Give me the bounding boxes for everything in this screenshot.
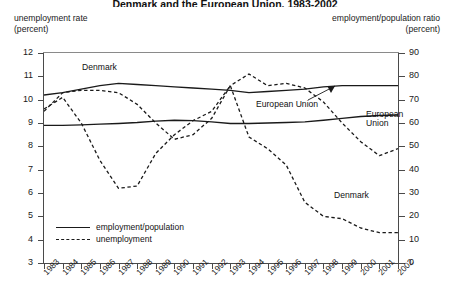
left-tick-label-5: 5 [9, 210, 33, 220]
right-axis-title-line2: (percent) [406, 24, 440, 34]
series-denmark-employment-population [44, 83, 398, 95]
right-tick-80 [399, 76, 405, 77]
right-tick-20 [399, 216, 405, 217]
series-european-union-employment-population [44, 115, 398, 125]
right-tick-label-40: 40 [409, 164, 435, 174]
chart-figure: Denmark and the European Union, 1983-200… [0, 0, 450, 303]
left-axis-title: unemployment rate (percent) [14, 13, 88, 34]
left-tick-label-10: 10 [9, 94, 33, 104]
right-tick-30 [399, 193, 405, 194]
right-tick-label-90: 90 [409, 47, 435, 57]
left-tick-label-8: 8 [9, 140, 33, 150]
right-tick-90 [399, 53, 405, 54]
left-tick-label-4: 4 [9, 234, 33, 244]
legend-solid-line-swatch [56, 223, 90, 231]
legend-item-unemployment: unemployment [56, 233, 184, 245]
left-tick-label-7: 7 [9, 164, 33, 174]
right-tick-label-80: 80 [409, 70, 435, 80]
left-tick-label-9: 9 [9, 117, 33, 127]
right-axis-title-line1: employment/population ratio [332, 13, 440, 23]
right-tick-label-50: 50 [409, 140, 435, 150]
legend-label-unemployment: unemployment [96, 234, 152, 244]
series-denmark-unemployment [44, 86, 398, 233]
left-axis-title-line1: unemployment rate [14, 13, 88, 23]
denmark-employment-label: Denmark [82, 63, 117, 73]
right-tick-10 [399, 240, 405, 241]
left-tick-label-11: 11 [9, 70, 33, 80]
right-axis-line [398, 52, 399, 264]
right-tick-50 [399, 146, 405, 147]
denmark-unemployment-label: Denmark [334, 191, 369, 201]
chart-title: Denmark and the European Union, 1983-200… [0, 0, 450, 7]
right-tick-60 [399, 123, 405, 124]
left-axis-title-line2: (percent) [14, 24, 48, 34]
left-tick-label-6: 6 [9, 187, 33, 197]
right-tick-40 [399, 170, 405, 171]
legend-item-employment-population: employment/population [56, 221, 184, 233]
european-union-employment-label: European Union [256, 100, 318, 110]
right-tick-label-30: 30 [409, 187, 435, 197]
left-tick-label-3: 3 [9, 257, 33, 267]
european-union-unemployment-label-line2: Union [366, 119, 388, 129]
right-tick-70 [399, 100, 405, 101]
right-tick-label-10: 10 [409, 234, 435, 244]
chart-legend: employment/population unemployment [56, 221, 184, 245]
right-tick-label-20: 20 [409, 210, 435, 220]
left-tick-label-12: 12 [9, 47, 33, 57]
right-axis-title: employment/population ratio (percent) [332, 13, 440, 34]
right-tick-label-70: 70 [409, 94, 435, 104]
right-tick-label-60: 60 [409, 117, 435, 127]
legend-label-employment-population: employment/population [96, 222, 184, 232]
legend-dashed-line-swatch [56, 235, 90, 243]
